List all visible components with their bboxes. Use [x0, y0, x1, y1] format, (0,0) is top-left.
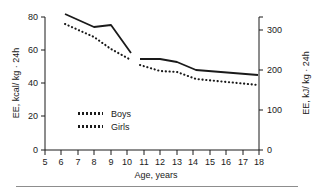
x-tick-label-15: 15 — [202, 157, 218, 167]
y-left-tick-label-80: 80 — [12, 12, 38, 22]
legend-item-boys: Boys — [77, 107, 131, 120]
x-axis-ticks — [45, 150, 259, 155]
x-tick-label-6: 6 — [53, 157, 69, 167]
x-tick-label-10: 10 — [119, 157, 135, 167]
x-axis-title: Age, years — [0, 170, 312, 180]
series-girls-segment-1 — [65, 24, 131, 60]
x-tick-label-9: 9 — [103, 157, 119, 167]
dotted-line-key-icon — [77, 112, 103, 115]
x-tick-label-8: 8 — [86, 157, 102, 167]
bottom-divider — [16, 186, 298, 187]
x-tick-label-16: 16 — [218, 157, 234, 167]
x-tick-label-11: 11 — [136, 157, 152, 167]
series-boys-segment-2 — [140, 59, 258, 75]
y-right-tick-label-0: 0 — [267, 145, 293, 155]
y-right-tick-label-300: 300 — [267, 25, 293, 35]
series-girls-segment-2 — [140, 65, 258, 85]
chart-figure: 80 60 40 20 0 300 200 100 0 5 6 7 8 9 10… — [0, 0, 312, 194]
chart-legend: Boys Girls — [77, 107, 131, 133]
legend-label-girls: Girls — [111, 122, 130, 132]
y-right-tick-label-200: 200 — [267, 65, 293, 75]
x-tick-label-12: 12 — [152, 157, 168, 167]
series-boys-segment-1 — [65, 14, 131, 53]
x-tick-label-14: 14 — [185, 157, 201, 167]
x-tick-label-18: 18 — [251, 157, 267, 167]
x-tick-label-13: 13 — [169, 157, 185, 167]
x-tick-label-5: 5 — [37, 157, 53, 167]
x-tick-label-7: 7 — [70, 157, 86, 167]
legend-label-boys: Boys — [111, 109, 131, 119]
y-axis-left-title: EE, kcal/ kg · 24h — [11, 23, 21, 143]
legend-item-girls: Girls — [77, 120, 131, 133]
y-left-tick-label-0: 0 — [12, 145, 38, 155]
y-right-tick-label-100: 100 — [267, 105, 293, 115]
dotted-line-key-icon — [77, 125, 103, 128]
x-tick-label-17: 17 — [235, 157, 251, 167]
y-axis-right-title: EE, kJ/ kg · 24h — [301, 23, 311, 143]
